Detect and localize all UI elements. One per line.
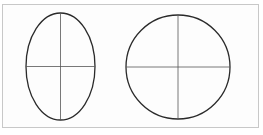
circle-figure — [126, 15, 230, 119]
ellipse-figure — [26, 13, 95, 120]
diagram-canvas — [0, 0, 263, 135]
